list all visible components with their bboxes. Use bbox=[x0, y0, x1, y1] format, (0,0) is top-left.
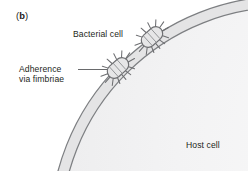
label-adherence-line1: Adherence bbox=[19, 64, 64, 74]
label-adherence-via-fimbriae: Adherence via fimbriae bbox=[19, 64, 64, 85]
label-host-cell: Host cell bbox=[186, 140, 220, 150]
label-adherence-line2: via fimbriae bbox=[19, 74, 64, 84]
panel-label: (b) bbox=[16, 11, 28, 21]
label-bacterial-cell: Bacterial cell bbox=[73, 29, 123, 39]
panel-letter: b bbox=[19, 10, 25, 21]
figure-panel-b: (b) Bacterial cell Adherence via fimbria… bbox=[0, 0, 248, 171]
